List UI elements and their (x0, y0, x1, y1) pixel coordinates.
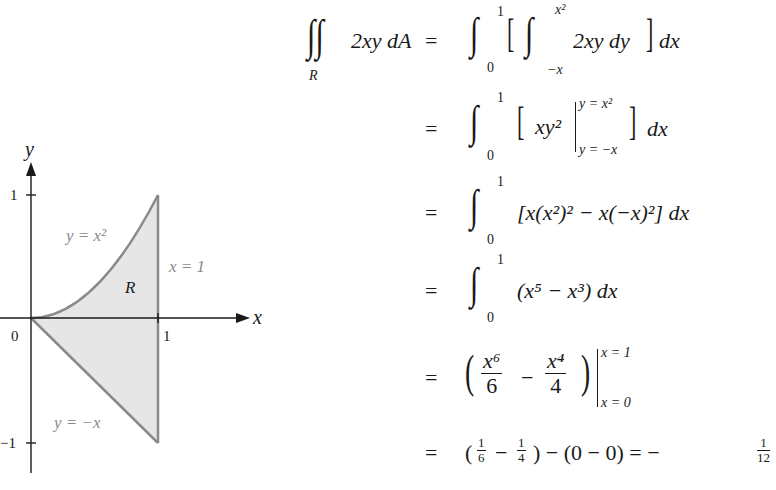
equals-sign: = (425, 116, 437, 142)
equals-sign: = (425, 28, 437, 54)
left-bracket: [ (517, 98, 524, 145)
fraction-1-over-6: 1 6 (477, 436, 486, 466)
inner-integral-icon: ∫ (525, 8, 533, 59)
right-bracket: ] (646, 10, 653, 57)
line-1: ∫∫ R 2xy dA = ∫ 1 0 [ ∫ x² −x 2xy dy ] d… (305, 6, 775, 86)
equals-sign: = (425, 278, 437, 304)
line-6: = ( 1 6 − 1 4 ) − (0 − 0) = − 1 12 (425, 428, 775, 478)
double-integral-icon: ∫∫ (307, 10, 324, 61)
left-bracket: [ (507, 10, 514, 57)
expression: xy² (535, 114, 561, 140)
minus-sign: − (521, 365, 533, 391)
line-2: = ∫ 1 0 [ xy² y = x² y = −x ] dx (425, 88, 775, 168)
label-x-equals-1: x = 1 (168, 257, 205, 276)
open-paren: ( (465, 440, 472, 466)
inner-integrand: 2xy dy (573, 28, 630, 54)
outer-lower-limit: 0 (487, 60, 494, 76)
equals-sign: = (425, 365, 437, 391)
expression: (x⁵ − x³) dx (517, 278, 618, 304)
integral-icon: ∫ (470, 258, 478, 309)
eval-lower: x = 0 (601, 395, 631, 411)
label-y-equals-x-squared: y = x² (64, 226, 107, 245)
region-graph: y x 1 −1 0 1 y = x² x = 1 y = −x R (0, 0, 290, 490)
label-y-equals-neg-x: y = −x (52, 413, 101, 432)
upper-limit: 1 (497, 90, 504, 106)
outer-differential: dx (659, 28, 680, 54)
eval-lower: y = −x (579, 142, 617, 158)
tick-label-origin: 0 (11, 328, 19, 344)
integral-icon: ∫ (470, 180, 478, 231)
left-paren: ( (465, 345, 474, 398)
integral-icon: ∫ (470, 96, 478, 147)
tick-label-y-1: 1 (10, 187, 18, 203)
equals-sign: = (425, 200, 437, 226)
x-axis-arrow-icon (236, 313, 250, 323)
double-integral-region: R (309, 68, 318, 84)
upper-limit: 1 (497, 174, 504, 190)
inner-upper-limit: x² (555, 2, 565, 18)
outer-upper-limit: 1 (497, 4, 504, 20)
upper-limit: 1 (497, 252, 504, 268)
inner-lower-limit: −x (547, 62, 563, 78)
line-3: = ∫ 1 0 [x(x²)² − x(−x)²] dx (425, 168, 775, 248)
fraction-x6-over-6: x⁶ 6 (481, 349, 502, 398)
right-paren: ) (581, 345, 590, 398)
line-4: = ∫ 1 0 (x⁵ − x³) dx (425, 246, 775, 326)
y-axis-arrow-icon (26, 162, 36, 176)
x-axis-label: x (252, 306, 262, 328)
minus-sign: − (495, 440, 507, 466)
evaluation-bar (575, 102, 576, 152)
line-5: = ( x⁶ 6 − x⁴ 4 ) x = 1 x = 0 (425, 345, 775, 415)
result-fraction-1-over-12: 1 12 (757, 436, 770, 466)
eval-upper: y = x² (579, 96, 612, 112)
lower-limit: 0 (487, 148, 494, 164)
tick-label-x-1: 1 (163, 328, 171, 344)
y-axis-label: y (23, 138, 34, 161)
equals-sign: = (425, 440, 437, 466)
differential: dx (647, 116, 668, 142)
evaluation-bar (597, 349, 598, 407)
eval-upper: x = 1 (601, 345, 631, 361)
fraction-x4-over-4: x⁴ 4 (545, 349, 566, 398)
remainder-expression: ) − (0 − 0) = − (533, 440, 660, 466)
lower-limit: 0 (487, 310, 494, 326)
expression: [x(x²)² − x(−x)²] dx (517, 200, 689, 226)
lhs-integrand: 2xy dA (351, 28, 411, 54)
fraction-1-over-4: 1 4 (517, 436, 526, 466)
region-label: R (124, 278, 136, 297)
right-bracket: ] (629, 98, 636, 145)
tick-label-y-neg1: −1 (0, 435, 16, 451)
outer-integral-icon: ∫ (470, 8, 478, 59)
